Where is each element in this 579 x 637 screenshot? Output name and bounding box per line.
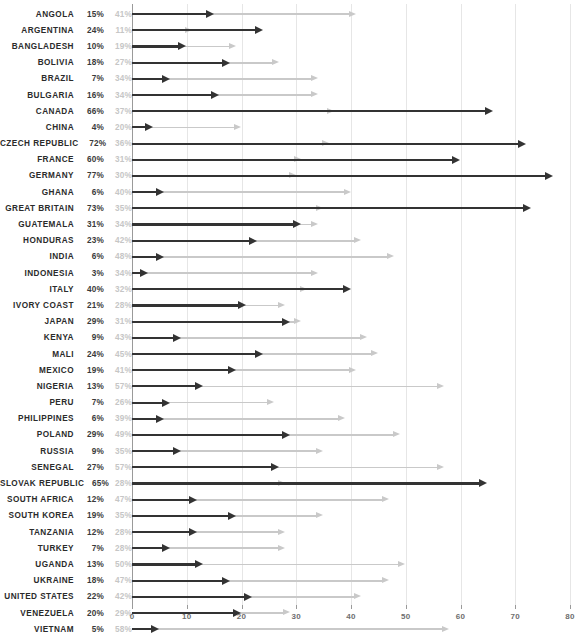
value-label-series-2: 43% (108, 333, 132, 342)
chart-row: UKRAINE18%47% (0, 573, 579, 589)
value-label-series-1: 9% (79, 333, 104, 342)
row-plot-area (132, 362, 579, 378)
country-label: MEXICO (39, 366, 74, 375)
chart-row: BULGARIA16%34% (0, 87, 579, 103)
chart-row: INDIA6%48% (0, 249, 579, 265)
row-label-block: SENEGAL27%57% (0, 463, 132, 472)
value-label-series-2: 36% (110, 139, 132, 148)
country-label: GREAT BRITAIN (5, 204, 74, 213)
row-label-block: ITALY40%32% (0, 285, 132, 294)
value-label-series-1: 21% (79, 301, 104, 310)
value-label-series-1: 10% (79, 42, 104, 51)
value-label-series-1: 65% (89, 479, 109, 488)
chart-row: PHILIPPINES6%39% (0, 411, 579, 427)
value-label-series-2: 40% (108, 188, 132, 197)
country-label: BULGARIA (27, 91, 74, 100)
value-label-series-2: 47% (108, 495, 132, 504)
chart-row: SOUTH AFRICA12%47% (0, 492, 579, 508)
chart-row: PERU7%26% (0, 395, 579, 411)
tick-label-70: 70 (511, 612, 520, 621)
row-label-block: MEXICO19%41% (0, 366, 132, 375)
country-label: INDONESIA (24, 269, 74, 278)
chart-row: BRAZIL7%34% (0, 71, 579, 87)
row-label-block: GERMANY77%30% (0, 171, 132, 180)
value-label-series-2: 26% (108, 398, 132, 407)
row-plot-area (132, 556, 579, 572)
row-label-block: IVORY COAST21%28% (0, 301, 132, 310)
row-plot-area (132, 6, 579, 22)
value-label-series-1: 29% (79, 430, 104, 439)
tick-mark-60 (461, 605, 462, 609)
value-label-series-2: 28% (108, 528, 132, 537)
tick-mark-80 (570, 605, 571, 609)
value-label-series-2: 34% (108, 91, 132, 100)
chart-row: MALI24%45% (0, 346, 579, 362)
value-label-series-2: 42% (108, 592, 132, 601)
tick-mark-30 (296, 605, 297, 609)
chart-row: SLOVAK REPUBLIC65%28% (0, 475, 579, 491)
country-label: CHINA (46, 123, 74, 132)
row-label-block: UGANDA13%50% (0, 560, 132, 569)
row-plot-area (132, 524, 579, 540)
row-label-block: NIGERIA13%57% (0, 382, 132, 391)
country-label: GERMANY (29, 171, 74, 180)
value-label-series-2: 47% (108, 576, 132, 585)
value-label-series-2: 39% (108, 414, 132, 423)
row-label-block: SLOVAK REPUBLIC65%28% (0, 479, 132, 488)
row-plot-area (132, 233, 579, 249)
value-label-series-1: 18% (79, 576, 104, 585)
value-label-series-1: 29% (79, 317, 104, 326)
row-plot-area (132, 281, 579, 297)
value-label-series-1: 7% (79, 398, 104, 407)
row-label-block: RUSSIA9%35% (0, 447, 132, 456)
chart-row: TURKEY7%28% (0, 540, 579, 556)
row-plot-area (132, 540, 579, 556)
value-label-series-1: 22% (79, 592, 104, 601)
value-label-series-2: 45% (108, 350, 132, 359)
value-label-series-1: 27% (79, 463, 104, 472)
row-label-block: MALI24%45% (0, 350, 132, 359)
value-label-series-1: 73% (79, 204, 104, 213)
value-label-series-2: 34% (108, 220, 132, 229)
country-label: POLAND (37, 430, 74, 439)
country-label: RUSSIA (40, 447, 74, 456)
country-label: BANGLADESH (12, 42, 74, 51)
row-plot-area (132, 103, 579, 119)
value-label-series-1: 60% (79, 155, 104, 164)
row-plot-area (132, 346, 579, 362)
row-label-block: PHILIPPINES6%39% (0, 414, 132, 423)
row-plot-area (132, 411, 579, 427)
chart-row: POLAND29%49% (0, 427, 579, 443)
value-label-series-2: 50% (108, 560, 132, 569)
country-label: FRANCE (37, 155, 74, 164)
value-label-series-2: 28% (108, 301, 132, 310)
value-label-series-1: 24% (79, 26, 104, 35)
row-label-block: PERU7%26% (0, 398, 132, 407)
value-label-series-1: 15% (79, 10, 104, 19)
row-label-block: TANZANIA12%28% (0, 528, 132, 537)
country-label: BOLIVIA (38, 58, 74, 67)
row-label-block: CZECH REPUBLIC72%36% (0, 139, 132, 148)
row-label-block: KENYA9%43% (0, 333, 132, 342)
row-plot-area (132, 459, 579, 475)
arrow-chart: ANGOLA15%41%ARGENTINA24%11%BANGLADESH10%… (0, 0, 579, 637)
value-label-series-2: 34% (108, 74, 132, 83)
country-label: BRAZIL (41, 74, 74, 83)
chart-row: HONDURAS23%42% (0, 233, 579, 249)
value-label-series-2: 31% (108, 317, 132, 326)
value-label-series-1: 77% (79, 171, 104, 180)
country-label: HONDURAS (23, 236, 74, 245)
row-label-block: HONDURAS23%42% (0, 236, 132, 245)
tick-label-0: 0 (130, 612, 135, 621)
chart-row: UGANDA13%50% (0, 556, 579, 572)
chart-row: BANGLADESH10%19% (0, 38, 579, 54)
row-plot-area (132, 55, 579, 71)
value-label-series-2: 42% (108, 236, 132, 245)
chart-row: TANZANIA12%28% (0, 524, 579, 540)
row-plot-area (132, 589, 579, 605)
value-label-series-1: 72% (84, 139, 107, 148)
value-label-series-1: 19% (79, 511, 104, 520)
chart-rows: ANGOLA15%41%ARGENTINA24%11%BANGLADESH10%… (0, 6, 579, 637)
country-label: NIGERIA (37, 382, 74, 391)
tick-label-50: 50 (401, 612, 410, 621)
